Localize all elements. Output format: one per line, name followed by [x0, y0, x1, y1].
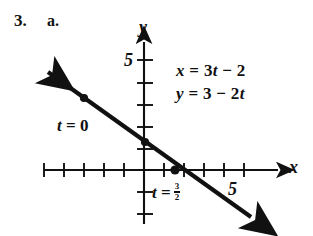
y-axis-label: y — [139, 18, 147, 36]
y-axis — [137, 42, 153, 224]
parametric-line-figure: 3. a. y x 5 5 x = 3t − 2 y = 3 − 2t t = … — [0, 0, 313, 236]
point-t-0 — [80, 94, 88, 102]
equation-x: x = 3t − 2 — [176, 62, 246, 79]
x-axis-tick-label-5: 5 — [228, 180, 237, 198]
point-t-three-halves — [170, 165, 179, 174]
fraction-numerator: 3 — [174, 182, 181, 191]
point-t-1 — [141, 138, 149, 146]
t-three-halves-prefix: t = — [152, 184, 171, 201]
x-axis — [44, 163, 278, 177]
part-letter: a. — [47, 13, 59, 29]
problem-number: 3. — [14, 12, 27, 29]
equation-y: y = 3 − 2t — [176, 85, 245, 102]
fraction-denominator: 2 — [174, 193, 181, 202]
t-zero-annotation: t = 0 — [57, 117, 88, 134]
t-three-halves-annotation: t = 3 2 — [152, 182, 180, 202]
y-axis-tick-label-5: 5 — [124, 51, 133, 69]
x-axis-label: x — [289, 158, 298, 176]
fraction-three-halves: 3 2 — [174, 182, 181, 202]
